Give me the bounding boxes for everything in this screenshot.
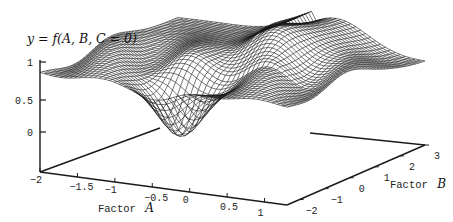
back-floor-line-right xyxy=(310,133,425,145)
back-floor-line-left xyxy=(40,128,160,172)
a-tick-label: −1.5 xyxy=(69,182,93,193)
z-tick-label: 1 xyxy=(27,58,33,69)
a-tick-label: 0.5 xyxy=(220,202,238,213)
a-axis-title: Factor A xyxy=(98,201,154,215)
a-tick-label: 0 xyxy=(183,195,189,206)
b-tick-label: −2 xyxy=(306,206,318,217)
z-axis-ticks: 10.50 xyxy=(15,58,46,139)
a-tick-label: −2 xyxy=(30,175,42,186)
chart-title: y = f(A, B, C = 0) xyxy=(27,31,137,46)
a-tick-label: −1 xyxy=(105,185,117,196)
b-tick-label: 2 xyxy=(409,162,415,173)
z-tick-label: 0.5 xyxy=(15,96,33,107)
surface-plot: 10.50 −2−1.5−1−0.500.51 −2−10123 Factor … xyxy=(0,0,453,222)
b-tick-label: 1 xyxy=(384,173,390,184)
b-tick-label: −1 xyxy=(331,195,343,206)
a-tick-label: 1 xyxy=(258,208,264,219)
b-axis-line xyxy=(287,145,425,205)
b-tick-label: 3 xyxy=(434,151,440,162)
z-tick-label: 0 xyxy=(27,128,33,139)
b-tick-label: 0 xyxy=(359,184,365,195)
b-axis-title: Factor B xyxy=(390,177,446,191)
